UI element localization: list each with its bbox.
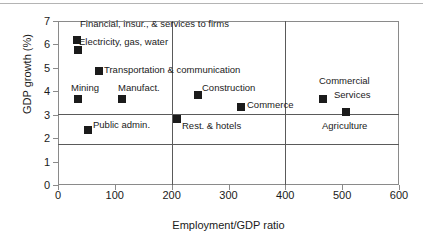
x-tick-label-300: 300 <box>209 189 249 201</box>
y-tick-label-5: 5 <box>24 62 50 74</box>
data-label-agriculture: Agriculture <box>322 121 367 131</box>
data-label-mining: Mining <box>71 83 99 93</box>
data-point-commercial-services[interactable] <box>319 95 327 103</box>
x-tick-label-500: 500 <box>322 189 362 201</box>
data-label-construction: Construction <box>202 83 255 93</box>
data-label-rest-hotels: Rest. & hotels <box>182 121 241 131</box>
data-label-public-admin: Public admin. <box>93 120 150 130</box>
data-label-financial: Financial, insur., & services to firms <box>80 19 229 29</box>
data-label-commercial: Commercial <box>319 76 370 86</box>
reference-line-vertical-200 <box>172 21 173 185</box>
x-tick-label-200: 200 <box>152 189 192 201</box>
reference-line-horizontal-lower <box>58 144 399 145</box>
data-point-mining[interactable] <box>74 95 82 103</box>
y-tick-label-1: 1 <box>24 156 50 168</box>
x-tick-label-100: 100 <box>95 189 135 201</box>
data-label-services: Services <box>334 90 370 100</box>
data-point-agriculture[interactable] <box>342 108 350 116</box>
y-tick-label-7: 7 <box>24 15 50 27</box>
data-point-transportation[interactable] <box>95 67 103 75</box>
data-label-transportation: Transportation & communication <box>104 65 240 75</box>
top-divider-rule <box>0 3 423 4</box>
data-point-manufact[interactable] <box>118 95 126 103</box>
y-tick-label-3: 3 <box>24 109 50 121</box>
data-label-commerce: Commerce <box>247 100 293 110</box>
y-tick-label-6: 6 <box>24 38 50 50</box>
data-label-electricity: Electricity, gas, water <box>79 37 168 47</box>
data-point-rest-hotels[interactable] <box>173 115 181 123</box>
x-tick-label-400: 400 <box>265 189 305 201</box>
chart-screenshot: GDP growth (%) 7 6 5 4 3 2 1 0 0 100 200… <box>0 0 423 240</box>
data-point-commerce[interactable] <box>237 103 245 111</box>
x-tick-label-0: 0 <box>38 189 78 201</box>
data-point-public-admin[interactable] <box>84 126 92 134</box>
data-point-electricity[interactable] <box>74 46 82 54</box>
x-tick-label-600: 600 <box>379 189 419 201</box>
data-label-manufact: Manufact. <box>118 83 160 93</box>
y-tick-label-4: 4 <box>24 85 50 97</box>
x-axis-title: Employment/GDP ratio <box>58 219 399 231</box>
y-tick-label-2: 2 <box>24 132 50 144</box>
